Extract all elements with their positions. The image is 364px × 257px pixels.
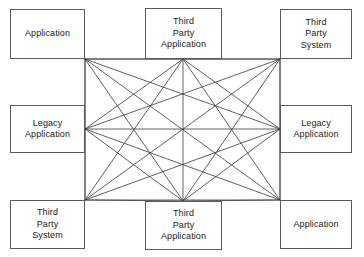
node-label: Legacy Application bbox=[293, 118, 338, 141]
node-label: Third Party System bbox=[301, 17, 332, 52]
node-bottom-left[interactable]: Third Party System bbox=[10, 200, 85, 249]
node-label: Legacy Application bbox=[25, 118, 70, 141]
node-top-right[interactable]: Third Party System bbox=[280, 9, 352, 59]
integration-diagram: ApplicationThird Party ApplicationThird … bbox=[0, 0, 364, 257]
node-mid-left[interactable]: Legacy Application bbox=[10, 105, 85, 153]
node-top-center[interactable]: Third Party Application bbox=[145, 8, 222, 59]
connection-mid-right-to-bottom-center bbox=[183, 129, 280, 201]
node-label: Third Party Application bbox=[161, 208, 206, 243]
node-label: Third Party System bbox=[32, 207, 63, 242]
node-label: Application bbox=[25, 28, 70, 40]
node-bottom-center[interactable]: Third Party Application bbox=[145, 201, 222, 250]
node-top-left[interactable]: Application bbox=[10, 9, 85, 59]
node-mid-right[interactable]: Legacy Application bbox=[280, 105, 352, 153]
node-label: Third Party Application bbox=[161, 16, 206, 51]
node-bottom-right[interactable]: Application bbox=[280, 200, 352, 249]
node-label: Application bbox=[293, 219, 338, 231]
